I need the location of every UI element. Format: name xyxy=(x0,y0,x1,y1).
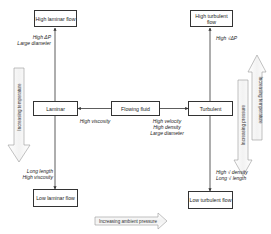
svg-text:Increasing temperature: Increasing temperature xyxy=(258,76,263,124)
laminar-condition-label: High viscosity xyxy=(78,118,112,124)
ambient-pressure-block-arrow: Increasing ambient pressure xyxy=(95,213,167,229)
turbulent-condition-label: High velocity High density Large diamete… xyxy=(150,118,184,136)
laminar-label: Laminar xyxy=(46,106,65,112)
large-diameter-text: Large diameter xyxy=(150,130,184,136)
right-pressure-block-arrow: Increasing pressure xyxy=(234,80,252,176)
large-diameter-text: Large diameter xyxy=(17,40,51,46)
turbulent-label: Turbulent xyxy=(200,106,222,112)
high-viscosity-text: High viscosity xyxy=(22,174,53,180)
high-turbulent-flow-label: High turbulent flow xyxy=(191,13,232,25)
long-sqrt-length-text: Long √ length xyxy=(216,175,248,181)
low-laminar-flow-label: Low laminar flow xyxy=(36,195,75,201)
right-temperature-block-arrow: Increasing temperature xyxy=(248,55,266,140)
low-turbulent-condition-label: High √ density Long √ length xyxy=(216,169,248,181)
left-temperature-block-arrow: Increasing temperature xyxy=(8,68,30,162)
laminar-node: Laminar xyxy=(33,101,78,116)
svg-text:Increasing ambient pressure: Increasing ambient pressure xyxy=(99,219,157,224)
svg-text:Increasing temperature: Increasing temperature xyxy=(17,83,22,131)
high-laminar-flow-label: High laminar flow xyxy=(36,16,76,22)
low-laminar-condition-label: Long length High viscosity xyxy=(22,168,53,180)
high-viscosity-text: High viscosity xyxy=(78,118,112,124)
high-sqrt-delta-p-text: High √ΔP xyxy=(216,35,237,41)
high-laminar-condition-label: High ΔP Large diameter xyxy=(17,34,51,46)
svg-text:Increasing pressure: Increasing pressure xyxy=(241,104,246,145)
high-laminar-flow-node: High laminar flow xyxy=(34,10,77,27)
low-turbulent-flow-label: Low turbulent flow xyxy=(190,197,232,203)
low-turbulent-flow-node: Low turbulent flow xyxy=(188,191,233,209)
turbulent-node: Turbulent xyxy=(188,101,233,116)
high-turbulent-flow-node: High turbulent flow xyxy=(190,10,233,27)
flowing-fluid-node: Flowing fluid xyxy=(111,101,160,116)
high-turbulent-condition-label: High √ΔP xyxy=(216,35,237,41)
low-laminar-flow-node: Low laminar flow xyxy=(33,189,78,207)
flowing-fluid-label: Flowing fluid xyxy=(121,106,150,112)
